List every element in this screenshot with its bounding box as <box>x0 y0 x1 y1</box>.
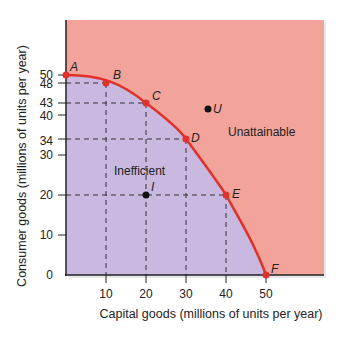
point-a-label: A <box>69 60 78 74</box>
point-b <box>103 80 110 87</box>
point-d-label: D <box>191 131 200 145</box>
y-tick-label-40: 40 <box>40 109 54 123</box>
unattainable-label: Unattainable <box>228 125 296 139</box>
y-tick-label-48: 48 <box>40 77 54 91</box>
point-i <box>143 192 150 199</box>
x-tick-label-30: 30 <box>179 287 193 301</box>
point-c <box>143 100 150 107</box>
x-axis-title: Capital goods (millions of units per yea… <box>99 307 322 321</box>
point-d <box>183 136 190 143</box>
y-ticks <box>58 75 66 235</box>
y-tick-label-34: 34 <box>40 134 54 148</box>
y-tick-label-30: 30 <box>40 148 54 162</box>
inefficient-label: Inefficient <box>114 164 166 178</box>
point-f-label: F <box>271 262 279 276</box>
point-c-label: C <box>152 89 161 103</box>
point-e-label: E <box>232 187 241 201</box>
y-tick-label-20: 20 <box>40 188 54 202</box>
point-a <box>63 72 70 79</box>
y-tick-label-43: 43 <box>40 96 54 110</box>
x-tick-label-10: 10 <box>99 287 113 301</box>
ppf-chart: 50 48 43 40 34 30 20 10 0 10 20 30 40 50… <box>0 0 345 337</box>
y-tick-label-0: 0 <box>46 268 53 282</box>
x-tick-label-20: 20 <box>139 287 153 301</box>
point-f <box>263 272 270 279</box>
y-axis-title: Consumer goods (millions of units per ye… <box>15 45 29 287</box>
x-tick-label-40: 40 <box>219 287 233 301</box>
point-e <box>223 192 230 199</box>
point-b-label: B <box>113 68 121 82</box>
point-u <box>205 106 212 113</box>
y-tick-label-10: 10 <box>40 228 54 242</box>
x-tick-label-50: 50 <box>259 287 273 301</box>
point-u-label: U <box>213 102 222 116</box>
